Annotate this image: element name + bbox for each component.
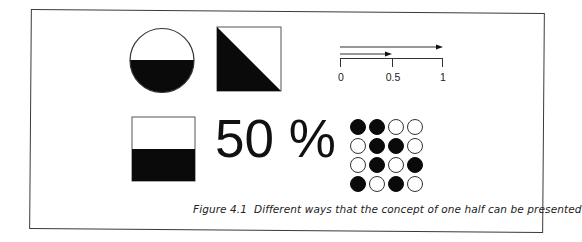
dot-r3-c2 (369, 157, 385, 173)
half-circle-icon (128, 26, 198, 96)
dot-r4-c4 (407, 176, 423, 192)
dot-r1-c2 (369, 119, 385, 135)
dot-r3-c1 (350, 157, 366, 173)
dot-r3-c4 (407, 157, 423, 173)
dot-r4-c1 (350, 176, 366, 192)
dot-r1-c3 (388, 119, 404, 135)
figure-caption: Figure 4.1 Different ways that the conce… (193, 203, 582, 215)
dot-r2-c1 (350, 138, 366, 154)
dot-r2-c3 (388, 138, 404, 154)
dot-r2-c4 (407, 138, 423, 154)
number-line (335, 40, 455, 72)
tick-label-half: 0.5 (386, 71, 401, 83)
dot-r3-c3 (388, 157, 404, 173)
tick-label-1: 1 (440, 71, 446, 83)
percent-text: 50 % (215, 112, 336, 165)
dot-r1-c4 (407, 119, 423, 135)
half-rectangle-icon (131, 116, 197, 184)
dot-r4-c3 (388, 176, 404, 192)
tick-label-0: 0 (338, 71, 344, 83)
dot-grid (350, 119, 426, 195)
dot-r2-c2 (369, 138, 385, 154)
dot-r1-c1 (350, 119, 366, 135)
half-square-icon (215, 25, 285, 95)
dot-r4-c2 (369, 176, 385, 192)
